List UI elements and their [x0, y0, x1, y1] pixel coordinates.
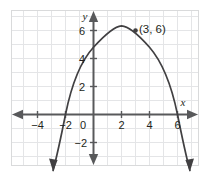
- x-tick-label-neg2: −2: [59, 119, 72, 131]
- coordinate-plane-svg: (3, 6) x y −4 −2 2 4 6 0 6 4 2 −2: [0, 0, 210, 174]
- y-tick-label-6: 6: [79, 25, 85, 37]
- x-tick-label-neg4: −4: [31, 119, 44, 131]
- x-tick-label-4: 4: [146, 119, 152, 131]
- parabola-graph-figure: (3, 6) x y −4 −2 2 4 6 0 6 4 2 −2: [0, 0, 210, 174]
- marked-point-3-6: [133, 28, 138, 33]
- y-tick-label-2: 2: [79, 81, 85, 93]
- origin-label: 0: [80, 119, 86, 131]
- y-axis-label: y: [82, 10, 88, 22]
- x-axis-label: x: [180, 96, 186, 108]
- y-tick-label-4: 4: [79, 53, 85, 65]
- y-tick-label-neg2: −2: [74, 137, 87, 149]
- x-tick-label-6: 6: [174, 119, 180, 131]
- x-tick-label-2: 2: [118, 119, 124, 131]
- point-label-3-6: (3, 6): [139, 23, 166, 35]
